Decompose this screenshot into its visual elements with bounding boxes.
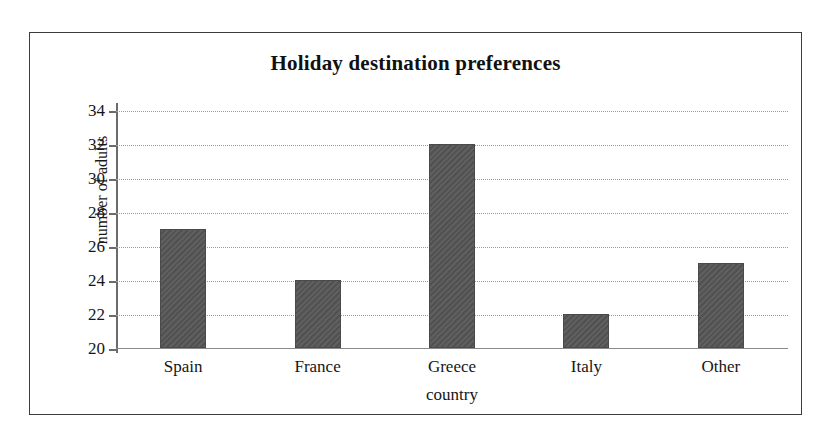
figure-frame: Holiday destination preferences number o… [29, 32, 802, 415]
bar-france [295, 280, 341, 348]
bar-slot [385, 110, 519, 348]
y-tick-mark [109, 247, 116, 249]
bar-slot [116, 110, 250, 348]
y-tick-label: 28 [88, 203, 105, 223]
bar-slot [250, 110, 384, 348]
x-axis-line [116, 348, 788, 350]
x-axis-label: country [116, 385, 788, 405]
y-tick-mark [109, 179, 116, 181]
x-tick-label-other: Other [654, 357, 788, 377]
bar-italy [563, 314, 609, 348]
x-axis-tick-labels: SpainFranceGreeceItalyOther [116, 357, 788, 383]
y-tick-label: 34 [88, 101, 105, 121]
y-tick-label: 24 [88, 271, 105, 291]
chart-page: Holiday destination preferences number o… [0, 0, 829, 440]
bar-slot [519, 110, 653, 348]
bar-other [698, 263, 744, 348]
y-tick-label: 26 [88, 237, 105, 257]
bar-greece [429, 144, 475, 348]
y-tick-mark [109, 213, 116, 215]
x-tick-label-spain: Spain [116, 357, 250, 377]
chart-title: Holiday destination preferences [30, 51, 801, 76]
y-tick-label: 30 [88, 169, 105, 189]
y-tick-label: 22 [88, 305, 105, 325]
x-tick-label-france: France [250, 357, 384, 377]
x-tick-label-greece: Greece [385, 357, 519, 377]
y-tick-mark [109, 281, 116, 283]
bar-spain [160, 229, 206, 348]
plot-area: 2022242628303234 [116, 111, 788, 349]
y-tick-mark [109, 315, 116, 317]
y-tick-label: 32 [88, 135, 105, 155]
bar-slot [654, 110, 788, 348]
y-tick-mark [109, 111, 116, 113]
bar-series [116, 110, 788, 348]
y-tick-mark [109, 145, 116, 147]
x-tick-label-italy: Italy [519, 357, 653, 377]
y-tick-label: 20 [88, 339, 105, 359]
y-tick-mark [109, 349, 116, 351]
